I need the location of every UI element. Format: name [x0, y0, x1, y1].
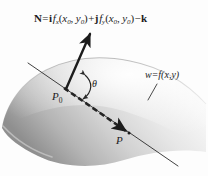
point-p-label: P — [116, 135, 123, 146]
vector-n-symbol: N — [34, 12, 42, 24]
normal-vector-equation: N=i fx(x0, y0)+j fy(x0, y0)−k — [34, 13, 147, 26]
surface-normal-figure: N=i fx(x0, y0)+j fy(x0, y0)−k w=f(x,y) P… — [0, 0, 208, 176]
point-p0-letter: P — [52, 90, 59, 102]
surface-w-symbol: w — [145, 69, 152, 80]
plus-sign: + — [88, 12, 95, 24]
point-p-dot — [128, 132, 131, 135]
equals-sign: = — [42, 12, 49, 24]
unit-vector-i: i — [49, 12, 52, 24]
unit-vector-k: k — [141, 12, 147, 24]
point-p0-label: P0 — [52, 91, 62, 104]
unit-vector-j: j — [95, 12, 99, 24]
point-p0-subscript: 0 — [59, 96, 63, 105]
angle-theta-label: θ — [92, 79, 97, 89]
surface-equation-label: w=f(x,y) — [145, 70, 179, 80]
surface-paren-close: ) — [176, 69, 179, 80]
figure-canvas — [0, 0, 208, 176]
